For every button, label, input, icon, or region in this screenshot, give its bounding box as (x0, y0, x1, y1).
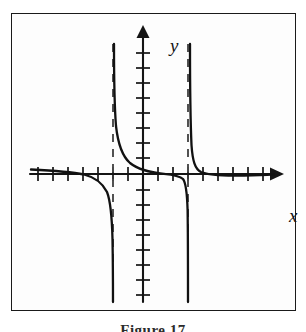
graph-canvas (12, 14, 297, 312)
figure-container: y x Figure 17 (0, 0, 306, 332)
y-axis-label: y (170, 36, 178, 55)
figure-caption: Figure 17 (0, 322, 306, 332)
y-axis (137, 25, 150, 302)
plot-frame: y x (11, 13, 296, 311)
y-axis-arrow-icon (137, 25, 150, 38)
curve-left-branch (31, 170, 113, 303)
curve-right-branch (190, 44, 274, 176)
x-axis-label: x (289, 206, 297, 225)
